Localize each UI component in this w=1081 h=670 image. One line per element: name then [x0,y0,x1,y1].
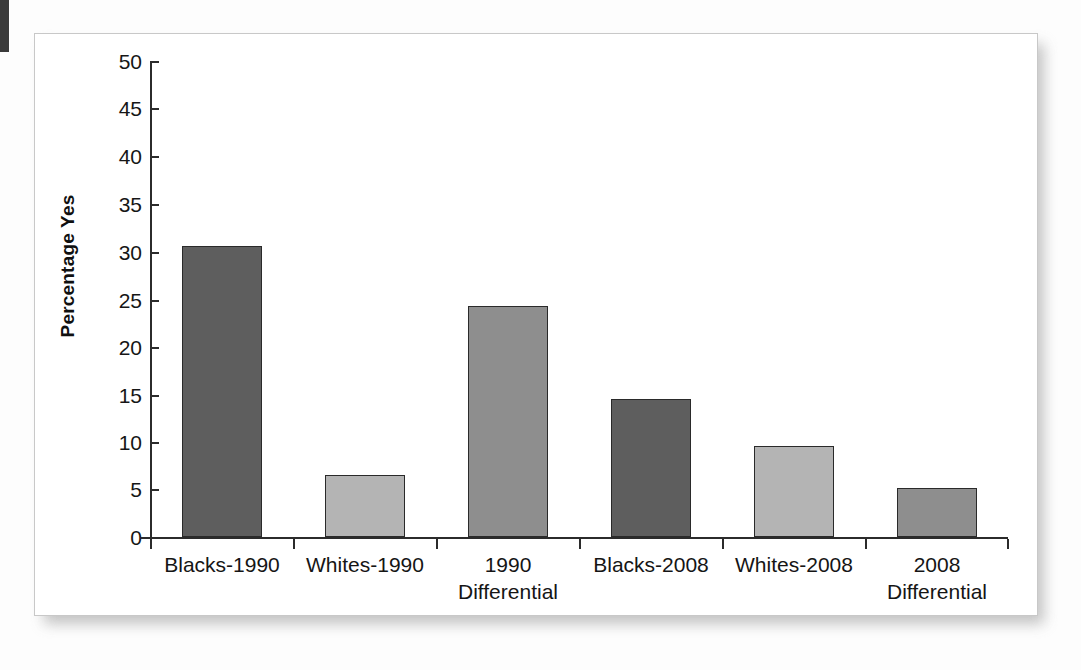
x-category-line1: 1990 [485,553,532,576]
x-category-line2: Differential [438,578,578,605]
y-tick-label-0: 0 [96,526,142,550]
x-category-label-whites-1990: Whites-1990 [295,551,435,578]
y-tick-mark-50 [150,61,159,63]
y-tick-label-20: 20 [96,336,142,360]
y-tick-label-40: 40 [96,145,142,169]
bar-whites-1990 [325,475,405,537]
y-tick-mark-20 [150,347,159,349]
bar-2008-differential [897,488,977,537]
x-category-label-blacks-1990: Blacks-1990 [152,551,292,578]
x-category-label-1990-differential: 1990 Differential [438,551,578,605]
x-tick-mark-2 [436,539,438,549]
bar-blacks-1990 [182,246,262,537]
bar-chart: Percentage Yes 50 45 40 35 30 25 20 15 1… [0,0,1081,670]
y-tick-label-5: 5 [96,478,142,502]
bar-whites-2008 [754,446,834,537]
y-tick-mark-5 [150,489,159,491]
y-tick-mark-45 [150,108,159,110]
x-tick-mark-6 [1007,539,1009,549]
y-tick-mark-25 [150,300,159,302]
x-category-line1: Blacks-2008 [593,553,709,576]
x-category-line1: Blacks-1990 [164,553,280,576]
y-tick-mark-40 [150,156,159,158]
x-category-line2: Differential [867,578,1007,605]
bar-blacks-2008 [611,399,691,537]
y-tick-label-10: 10 [96,431,142,455]
y-tick-label-15: 15 [96,384,142,408]
x-tick-mark-5 [865,539,867,549]
y-tick-label-35: 35 [96,193,142,217]
x-tick-mark-1 [293,539,295,549]
x-category-label-2008-differential: 2008 Differential [867,551,1007,605]
x-tick-mark-4 [722,539,724,549]
y-tick-label-50: 50 [96,50,142,74]
y-tick-mark-30 [150,252,159,254]
x-category-label-whites-2008: Whites-2008 [724,551,864,578]
x-tick-mark-3 [579,539,581,549]
x-category-line1: Whites-1990 [306,553,424,576]
y-axis-title: Percentage Yes [57,136,79,396]
screenshot-root: Percentage Yes 50 45 40 35 30 25 20 15 1… [0,0,1081,670]
y-tick-label-30: 30 [96,241,142,265]
y-tick-label-25: 25 [96,289,142,313]
y-tick-mark-35 [150,204,159,206]
x-category-line1: 2008 [914,553,961,576]
y-tick-mark-10 [150,442,159,444]
y-tick-label-45: 45 [96,97,142,121]
bar-1990-differential [468,306,548,537]
x-category-label-blacks-2008: Blacks-2008 [581,551,721,578]
x-category-line1: Whites-2008 [735,553,853,576]
x-tick-mark-0 [150,539,152,549]
y-tick-mark-15 [150,395,159,397]
